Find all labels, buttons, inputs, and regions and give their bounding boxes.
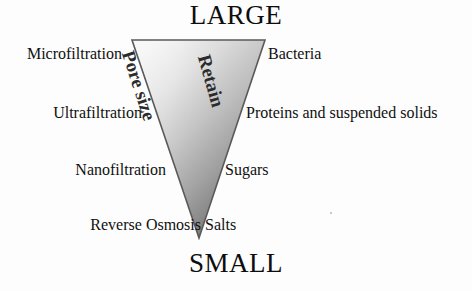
retained-label-salts: Salts [205,216,236,234]
process-label-nanofiltration: Nanofiltration [75,161,166,179]
process-label-reverse-osmosis: Reverse Osmosis [90,216,201,234]
retained-label-bacteria: Bacteria [268,45,321,63]
filtration-spectrum-diagram: LARGE Pore [0,0,472,291]
retained-label-sugars: Sugars [225,161,269,179]
large-heading: LARGE [0,0,472,31]
process-label-microfiltration: Microfiltration [27,45,122,63]
small-heading: SMALL [0,248,472,279]
scan-artifact-speck [330,212,332,214]
retained-label-proteins: Proteins and suspended solids [246,104,438,122]
process-label-ultrafiltration: Ultrafiltration [53,104,142,122]
